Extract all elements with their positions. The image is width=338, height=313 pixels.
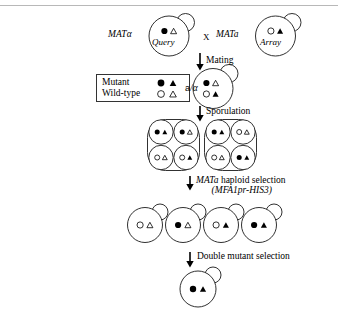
haploid-4-symbol-circle [251, 222, 257, 228]
haploid-1-symbol-circle [137, 222, 143, 228]
tetrad-left [148, 120, 200, 171]
tetrad-right-spore-1-symbol-circle [212, 130, 217, 135]
query-cell-label: Query [152, 38, 175, 47]
sporulation-arrow [196, 106, 203, 122]
haploid-2-symbol-circle [175, 222, 181, 228]
tetrad-right-spore-2-symbol-circle [237, 130, 242, 135]
array-genotype-label: MATa [216, 30, 239, 40]
haploid-cell-1 [128, 204, 169, 243]
haploid-cell-2 [166, 204, 207, 243]
haploid-selection-arrow [186, 176, 193, 191]
array-cell-label: Array [260, 38, 281, 47]
final-double-mutant-cell [180, 267, 221, 307]
tetrad-right [205, 120, 257, 171]
legend-circle-0 [158, 80, 165, 87]
tetrad-right-spore-3-symbol-circle [212, 155, 217, 160]
figure-canvas: MATα Query X MATa Array Mating Mutant Wi… [0, 0, 338, 313]
query-genotype-label: MATα [108, 30, 132, 40]
haploid-cell-3 [204, 204, 245, 243]
double-mutant-selection-label: Double mutant selection [197, 252, 290, 262]
tetrad-left-spore-2-symbol-circle [180, 130, 185, 135]
double-mutant-arrow [186, 252, 193, 268]
haploid-selection-line1-rest: haploid selection [219, 175, 286, 185]
tetrad-left-spore-1-symbol-circle [155, 130, 160, 135]
final-cell-symbol-circle [190, 286, 196, 292]
tetrad-right-spore-4-symbol-circle [237, 155, 242, 160]
array-cell [256, 14, 302, 57]
array-symbol-circle [268, 28, 274, 34]
legend-triangle-1 [170, 91, 177, 97]
sporulation-label: Sporulation [206, 107, 250, 117]
legend-triangle-0 [170, 80, 177, 86]
haploid-cell-4 [242, 204, 283, 243]
haploid-3-symbol-circle [213, 222, 219, 228]
mating-arrow [196, 53, 203, 71]
query-symbol-circle [161, 28, 167, 34]
cross-operator: X [203, 33, 210, 42]
haploid-selection-line2: (MFA1pr-HIS3) [196, 186, 286, 196]
legend-symbols [97, 75, 191, 103]
query-cell [149, 14, 195, 57]
mating-label: Mating [206, 56, 233, 66]
symbol-legend: Mutant Wild-type [96, 74, 190, 102]
diploid-top-symbol-circle [203, 80, 209, 86]
tetrad-left-spore-4-symbol-circle [180, 155, 185, 160]
tetrad-left-spore-3-symbol-circle [155, 155, 160, 160]
diploid-bottom-symbol-circle [203, 91, 209, 97]
diploid-cell [193, 65, 238, 109]
haploid-selection-label: MATa haploid selection (MFA1pr-HIS3) [196, 176, 286, 196]
diploid-ploidy-label: a/α [185, 84, 198, 94]
legend-circle-1 [158, 91, 165, 98]
